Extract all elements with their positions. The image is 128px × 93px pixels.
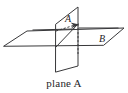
figure-caption: plane A [0, 77, 128, 90]
geometry-figure: A B plane A [0, 0, 128, 93]
label-line-b: B [99, 33, 105, 44]
label-plane-a: A [64, 13, 72, 24]
